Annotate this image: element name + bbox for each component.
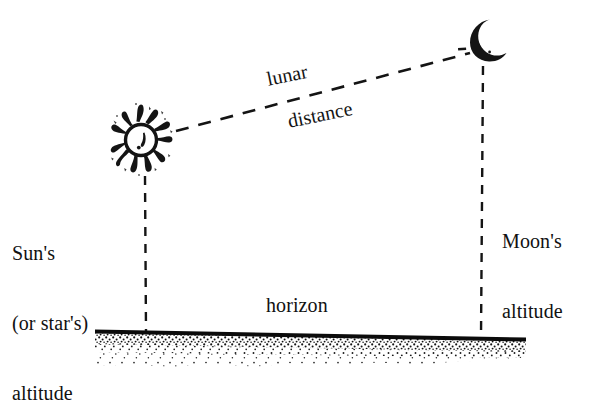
sun-altitude-line-3: altitude	[12, 382, 88, 404]
sun-altitude-dashed-line	[145, 176, 146, 331]
moon-altitude-line-2: altitude	[502, 300, 563, 323]
moon-altitude-dashed-line	[481, 66, 483, 338]
sun-altitude-line-1: Sun's	[12, 242, 88, 265]
moon-altitude-line-1: Moon's	[502, 230, 563, 253]
sun-altitude-line-2: (or star's)	[12, 312, 88, 335]
sun-icon	[111, 103, 173, 176]
horizon-label: horizon	[266, 294, 328, 317]
moon-altitude-label: Moon's altitude	[502, 184, 563, 370]
sun-altitude-label: Sun's (or star's) altitude	[12, 196, 88, 404]
